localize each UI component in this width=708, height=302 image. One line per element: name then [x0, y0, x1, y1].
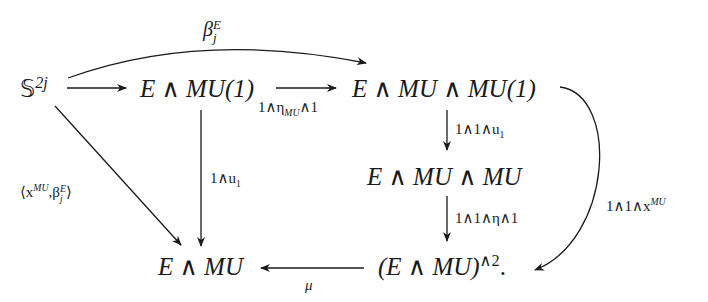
label-u1-vertical: 1∧u1	[210, 171, 241, 186]
label-mu: μ	[305, 278, 313, 293]
arrow-x-curve	[535, 87, 600, 270]
arrow-diagonal	[55, 106, 181, 245]
arrows-layer	[0, 0, 708, 302]
node-e-mu-mu: E ∧ MU ∧ MU	[367, 164, 522, 189]
node-e-mu1: E ∧ MU(1)	[140, 76, 254, 101]
label-eta-right: 1∧1∧η∧1	[455, 211, 518, 226]
label-u1-right: 1∧1∧u1	[455, 122, 504, 137]
arrow-beta-top	[68, 50, 366, 78]
node-sphere: 𝕊2j	[20, 76, 48, 101]
commutative-diagram: 𝕊2j E ∧ MU(1) E ∧ MU ∧ MU(1) E ∧ MU ∧ MU…	[0, 0, 708, 302]
node-e-mu-mu1: E ∧ MU ∧ MU(1)	[352, 76, 536, 101]
label-beta-top: βEj	[203, 18, 221, 44]
label-x-curve: 1∧1∧xMU	[606, 199, 666, 214]
label-diagonal: ⟨xMU,βEj⟩	[20, 184, 72, 204]
node-e-mu-squared: (E ∧ MU)∧2.	[378, 254, 506, 279]
node-e-mu: E ∧ MU	[158, 254, 243, 279]
label-eta: 1∧ηMU∧1	[258, 100, 318, 115]
